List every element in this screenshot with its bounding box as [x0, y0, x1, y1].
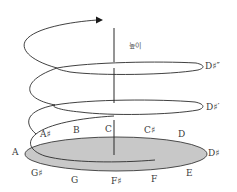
note-label-d: D — [178, 129, 185, 139]
arrow-head-icon — [96, 17, 103, 24]
note-label-f: F — [151, 174, 157, 184]
note-label-d-sharp-prime: D♯′ — [206, 102, 220, 112]
chroma-circle-base — [25, 137, 207, 171]
note-label-c-sharp: C♯ — [144, 125, 155, 135]
note-label-g: G — [71, 175, 78, 185]
note-label-d-sharp-double-prime: D♯″ — [205, 61, 221, 71]
note-label-d-sharp: D♯ — [208, 148, 220, 158]
pitch-helix-diagram: 높이 D♯″ D♯′ A A♯ B C C♯ D D♯ E F F♯ G G♯ — [0, 0, 237, 192]
height-axis-label: 높이 — [129, 41, 141, 50]
helix-turn-2 — [30, 62, 203, 105]
note-label-a-sharp: A♯ — [39, 129, 51, 139]
note-label-a: A — [11, 147, 19, 157]
note-label-c: C — [105, 124, 112, 134]
note-label-g-sharp: G♯ — [31, 168, 43, 178]
note-label-f-sharp: F♯ — [111, 176, 122, 186]
helix-turn-3 — [24, 20, 97, 68]
note-label-b: B — [73, 125, 80, 135]
note-label-e: E — [186, 168, 193, 178]
